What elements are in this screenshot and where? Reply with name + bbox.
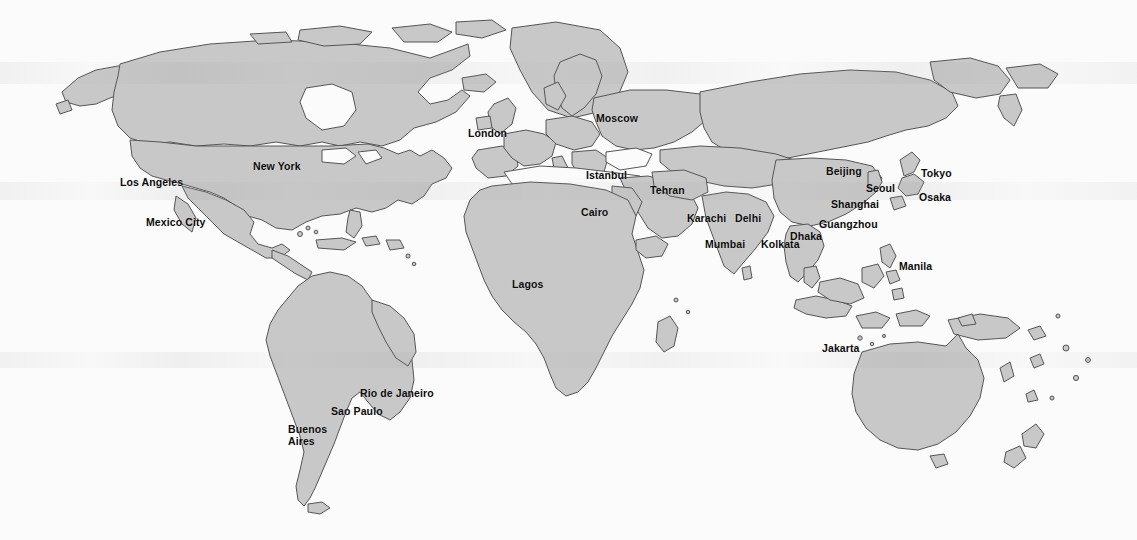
map-landmass-graphic [0, 0, 1137, 540]
world-map: Los AngelesNew YorkMexico CityRio de Jan… [0, 0, 1137, 540]
